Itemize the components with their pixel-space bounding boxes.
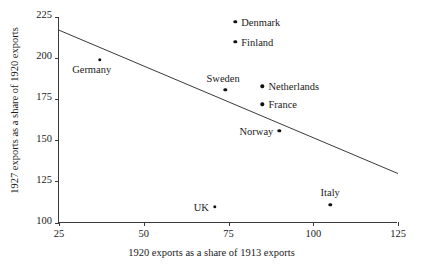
x-tick-label: 100 (305, 228, 321, 239)
y-tick-mark (55, 17, 59, 18)
plot-area: 100125150175200225 255075100125 GermanyD… (58, 17, 397, 223)
point-label: Finland (241, 36, 273, 47)
point-label: Denmark (241, 16, 280, 27)
x-tick-label: 75 (223, 228, 234, 239)
x-tick-mark (313, 222, 314, 226)
x-tick-label: 125 (390, 228, 406, 239)
y-axis-title: 1927 exports as a share of 1920 exports (9, 16, 20, 206)
y-tick-mark (55, 58, 59, 59)
y-tick-mark (55, 140, 59, 141)
trendline (59, 17, 398, 223)
point-label: Netherlands (268, 81, 319, 92)
x-axis-title: 1920 exports as a share of 1913 exports (0, 247, 423, 258)
point-label: Norway (240, 125, 274, 136)
y-tick-label: 100 (36, 215, 52, 226)
x-tick-label: 50 (139, 228, 150, 239)
point-label: Italy (321, 187, 340, 198)
point-label: Sweden (206, 73, 239, 84)
y-tick-label: 125 (36, 174, 52, 185)
x-tick-mark (144, 222, 145, 226)
x-tick-mark (229, 222, 230, 226)
x-tick-label: 25 (54, 228, 65, 239)
y-tick-label: 225 (36, 9, 52, 20)
scatter-chart: 100125150175200225 255075100125 GermanyD… (0, 0, 423, 268)
y-tick-mark (55, 181, 59, 182)
point-label: UK (194, 201, 209, 212)
y-tick-mark (55, 99, 59, 100)
x-tick-mark (398, 222, 399, 226)
point-label: Germany (72, 64, 111, 75)
y-tick-label: 150 (36, 133, 52, 144)
point-label: France (268, 99, 297, 110)
y-tick-label: 200 (36, 50, 52, 61)
y-tick-label: 175 (36, 91, 52, 102)
x-tick-mark (59, 222, 60, 226)
